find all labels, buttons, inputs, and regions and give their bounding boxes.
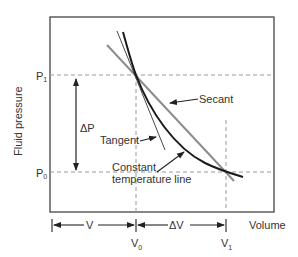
volume-dimensions [52,219,226,232]
v-dimension-label: V [86,219,94,231]
y-axis-label: Fluid pressure [12,86,24,156]
secant-pointer [170,99,198,103]
tangent-label: Tangent [100,134,139,146]
secant-label: Secant [199,93,233,105]
constant-temp-pointer [157,152,184,172]
pressure-volume-diagram: P1 P0 Fluid pressure ΔP Secant Tangent C… [0,0,298,257]
constant-temp-label-line2: temperature line [112,173,192,185]
x-axis-label: Volume [249,219,286,231]
v1-label: V1 [221,237,232,251]
tangent-line [117,31,165,150]
delta-v-label: ΔV [169,219,184,231]
tangent-pointer [140,137,156,141]
p1-label: P1 [36,70,47,83]
constant-temp-label-line1: Constant [112,161,156,173]
p0-label: P0 [36,167,47,180]
v0-label: V0 [131,237,142,251]
delta-p-label: ΔP [80,122,95,134]
